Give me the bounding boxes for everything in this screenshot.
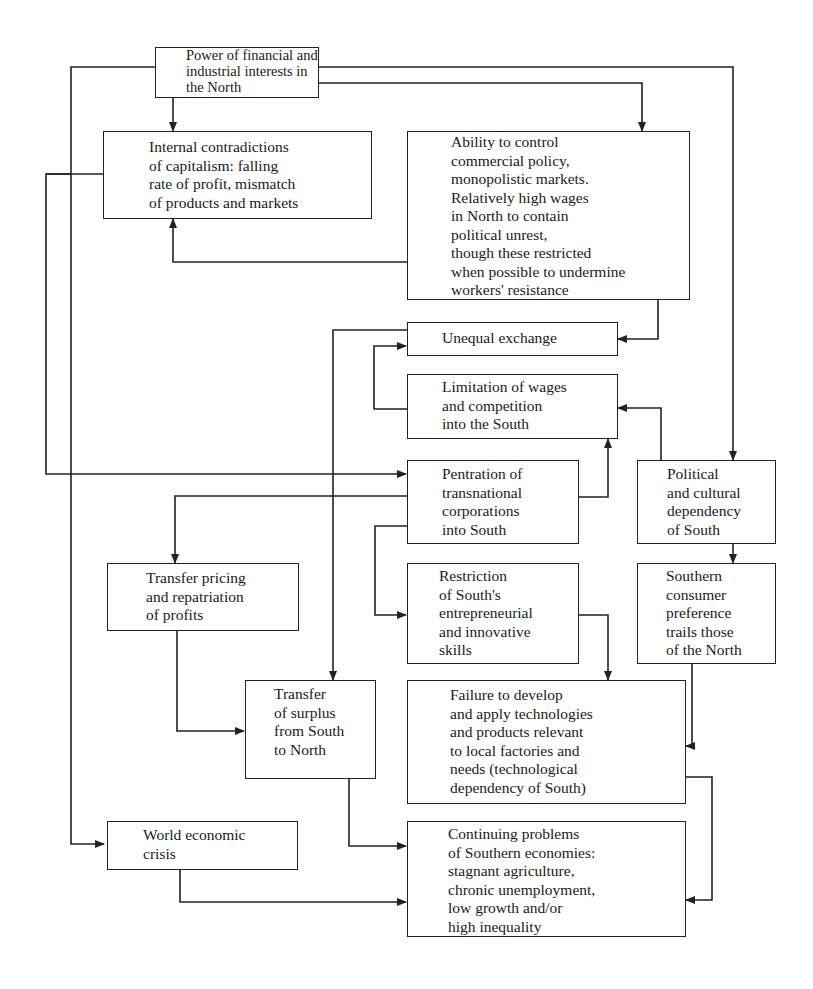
edge-ability-internal bbox=[173, 219, 407, 262]
node-transfer-pricing[interactable]: Transfer pricing and repatriation of pro… bbox=[107, 563, 299, 631]
flowchart-canvas: Power of financial and industrial intere… bbox=[0, 0, 813, 989]
edge-ability-unequal bbox=[618, 299, 658, 339]
node-limitation-wages[interactable]: Limitation of wages and competition into… bbox=[407, 374, 618, 439]
node-restriction-skills[interactable]: Restriction of South's entrepreneurial a… bbox=[407, 563, 579, 664]
node-label: Limitation of wages and competition into… bbox=[442, 378, 567, 434]
node-southern-consumer[interactable]: Southern consumer preference trails thos… bbox=[637, 563, 776, 664]
edge-pentration-limitation bbox=[579, 439, 608, 497]
node-internal-contradictions[interactable]: Internal contradictions of capitalism: f… bbox=[103, 131, 372, 219]
edge-failure-continuing bbox=[685, 777, 712, 900]
node-label: Internal contradictions of capitalism: f… bbox=[149, 138, 298, 212]
node-label: Transfer of surplus from South to North bbox=[274, 685, 344, 759]
node-label: Political and cultural dependency of Sou… bbox=[667, 465, 741, 539]
edge-internal-pentration bbox=[46, 174, 406, 474]
node-unequal-exchange[interactable]: Unequal exchange bbox=[407, 322, 618, 356]
node-pentration-tncs[interactable]: Pentration of transnational corporations… bbox=[407, 460, 579, 544]
node-transfer-surplus[interactable]: Transfer of surplus from South to North bbox=[245, 680, 376, 779]
node-label: Unequal exchange bbox=[442, 329, 557, 348]
edge-surplus-continuing bbox=[349, 778, 406, 846]
edge-pentration-transferpricing bbox=[175, 496, 407, 563]
node-power-north[interactable]: Power of financial and industrial intere… bbox=[155, 47, 319, 98]
node-political-dependency[interactable]: Political and cultural dependency of Sou… bbox=[637, 460, 776, 544]
edge-pentration-restriction bbox=[375, 526, 407, 615]
node-label: Continuing problems of Southern economie… bbox=[448, 825, 595, 936]
node-label: World economic crisis bbox=[143, 826, 245, 863]
edge-worldcrisis-continuing bbox=[180, 869, 406, 902]
node-label: Ability to control commercial policy, mo… bbox=[451, 133, 625, 300]
edge-political-limitation bbox=[618, 408, 661, 460]
edge-southern-failure bbox=[686, 663, 692, 746]
node-continuing-problems[interactable]: Continuing problems of Southern economie… bbox=[407, 821, 686, 937]
edge-power-ability bbox=[318, 83, 642, 131]
node-ability-control[interactable]: Ability to control commercial policy, mo… bbox=[407, 131, 690, 300]
edge-transferpricing-surplus bbox=[177, 630, 244, 731]
node-world-economic-crisis[interactable]: World economic crisis bbox=[107, 821, 298, 870]
node-label: Transfer pricing and repatriation of pro… bbox=[146, 569, 246, 625]
node-label: Failure to develop and apply technologie… bbox=[450, 686, 593, 797]
edge-unequal-surplus bbox=[333, 330, 407, 680]
node-label: Power of financial and industrial intere… bbox=[186, 47, 318, 95]
node-label: Pentration of transnational corporations… bbox=[442, 465, 523, 539]
edge-limitation-unequal bbox=[374, 346, 407, 409]
edge-restriction-failure bbox=[579, 615, 608, 680]
node-label: Southern consumer preference trails thos… bbox=[666, 567, 742, 660]
node-label: Restriction of South's entrepreneurial a… bbox=[439, 567, 533, 660]
node-failure-technology[interactable]: Failure to develop and apply technologie… bbox=[407, 680, 686, 804]
